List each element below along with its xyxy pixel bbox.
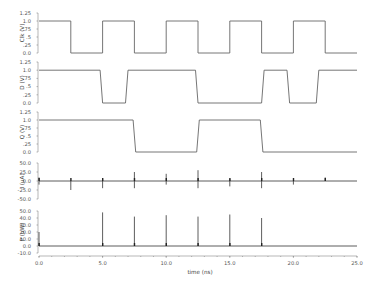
spike-marker [166, 178, 167, 181]
spike-marker [70, 178, 71, 181]
y-tick-label: .25 [23, 141, 31, 147]
spike-marker [134, 178, 135, 181]
spike-marker [102, 178, 103, 181]
panel-q: 1.251.0.75.5.250.0Q (V) [19, 109, 357, 155]
x-tick-label: 25.0 [351, 260, 363, 266]
y-tick-label: .5 [26, 83, 31, 89]
spike-marker [325, 178, 326, 181]
chart-panels: 1.251.0.75.5.250.0Clk (V)1.251.0.75.5.25… [18, 10, 357, 256]
x-axis-label: time (ns) [187, 269, 212, 275]
y-tick-label: 1.0 [23, 67, 31, 73]
panel-i: 50.025.00.0-25.0-50.0I (uA) [18, 160, 357, 202]
x-axis: 0.05.010.015.020.025.0 [35, 256, 363, 266]
spike-marker [197, 178, 198, 181]
waveform-q [39, 120, 357, 152]
x-tick-label: 10.0 [160, 260, 172, 266]
panel-d: 1.251.0.75.5.250.0D (V) [19, 59, 357, 106]
spike-marker [166, 243, 167, 246]
y-tick-label: 1.25 [19, 109, 31, 115]
spike-marker [102, 243, 103, 246]
waveform-clk [39, 21, 357, 53]
y-tick-label: 40.0 [19, 215, 31, 221]
y-tick-label: -10.0 [18, 250, 31, 256]
spike-marker [261, 178, 262, 181]
spike-marker [38, 243, 39, 246]
y-tick-label: 50.0 [19, 208, 31, 214]
y-axis-label: D (V) [19, 75, 25, 89]
y-tick-label: 1.0 [23, 117, 31, 123]
waveform-d [39, 70, 357, 103]
panel-p: 50.040.030.020.010.00.0-10.0P (uW) [18, 208, 357, 256]
y-axis-label: P (uW) [19, 223, 25, 242]
y-tick-label: .5 [26, 133, 31, 139]
x-tick-label: 15.0 [224, 260, 236, 266]
y-tick-label: 50.0 [19, 160, 31, 166]
y-axis-label: Q (V) [19, 125, 25, 139]
y-tick-label: .5 [26, 34, 31, 40]
y-tick-label: 0.0 [23, 149, 31, 155]
panel-clk: 1.251.0.75.5.250.0Clk (V) [19, 10, 357, 56]
y-axis-label: Clk (V) [19, 24, 25, 43]
spike-marker [229, 178, 230, 181]
spike-marker [197, 243, 198, 246]
y-tick-label: 0.0 [23, 100, 31, 106]
spike-marker [38, 178, 39, 181]
y-tick-label: 1.25 [19, 59, 31, 65]
spike-marker [293, 178, 294, 181]
y-tick-label: -50.0 [18, 196, 31, 202]
x-tick-label: 5.0 [98, 260, 106, 266]
spike-marker [229, 243, 230, 246]
spike-marker [261, 243, 262, 246]
y-tick-label: .25 [23, 92, 31, 98]
y-tick-label: 1.0 [23, 18, 31, 24]
y-tick-label: 0.0 [23, 243, 31, 249]
y-tick-label: 1.25 [19, 10, 31, 16]
y-axis-label: I (uA) [19, 173, 25, 188]
x-tick-label: 20.0 [288, 260, 300, 266]
waveform-chart: 1.251.0.75.5.250.0Clk (V)1.251.0.75.5.25… [0, 0, 373, 285]
y-tick-label: 0.0 [23, 50, 31, 56]
x-tick-label: 0.0 [35, 260, 43, 266]
spike-marker [134, 243, 135, 246]
